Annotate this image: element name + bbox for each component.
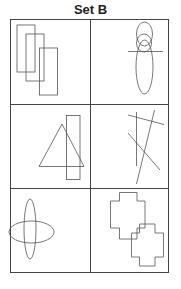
- grid-frame: [11, 20, 169, 273]
- figure-grid: [0, 0, 181, 289]
- cell-r2c1-triangle-rectangle: [39, 116, 84, 180]
- cell-r1c1-rectangles: [17, 25, 58, 95]
- cell-r3c2-crosses: [111, 193, 164, 267]
- cell-r1c2-ellipses-line: [128, 22, 163, 94]
- cell-r3c1-ellipses: [9, 199, 54, 259]
- cell-r2c2-lines: [128, 110, 164, 184]
